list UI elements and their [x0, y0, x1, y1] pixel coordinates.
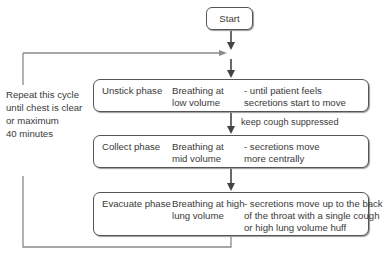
effect-line: - secretions move up to the back	[244, 198, 383, 210]
phase-breathing: Breathing at mid volume	[172, 141, 224, 165]
breathing-line: mid volume	[172, 153, 224, 165]
phase-name: Collect phase	[102, 141, 160, 153]
effect-line: or high lung volume huff	[244, 222, 383, 234]
loop-note-line: 40 minutes	[6, 127, 82, 140]
breathing-line: Breathing at	[172, 85, 224, 97]
effect-line: of the throat with a single cough	[244, 210, 383, 222]
arrow-start-down	[227, 30, 235, 50]
loop-return-arrow	[23, 50, 227, 56]
loop-note-line: or maximum	[6, 114, 82, 127]
effect-line: - secretions move	[244, 141, 320, 153]
arrow-unstick-to-collect	[227, 112, 235, 134]
effect-line: more centrally	[244, 153, 320, 165]
breathing-line: low volume	[172, 97, 224, 109]
start-node: Start	[206, 7, 253, 30]
transition-label: keep cough suppressed	[241, 116, 339, 128]
effect-line: - until patient feels	[244, 85, 346, 97]
start-label: Start	[207, 8, 252, 29]
phase-effect: - secretions move up to the back of the …	[244, 198, 383, 234]
phase-breathing: Breathing at high lung volume	[172, 198, 245, 222]
phase-box-unstick: Unstick phase Breathing at low volume - …	[93, 79, 369, 112]
breathing-line: Breathing at high	[172, 198, 245, 210]
phase-effect: - secretions move more centrally	[244, 141, 320, 165]
arrow-collect-to-evacuate	[227, 168, 235, 191]
arrow-to-unstick	[227, 59, 235, 78]
phase-name: Unstick phase	[102, 85, 162, 97]
breathing-line: lung volume	[172, 210, 245, 222]
phase-box-collect: Collect phase Breathing at mid volume - …	[93, 135, 369, 168]
phase-breathing: Breathing at low volume	[172, 85, 224, 109]
effect-line: secretions start to move	[244, 97, 346, 109]
loop-note-line: until chest is clear	[6, 101, 82, 114]
phase-box-evacuate: Evacuate phase Breathing at high lung vo…	[93, 192, 369, 236]
loop-note: Repeat this cycle until chest is clear o…	[6, 88, 82, 140]
phase-name: Evacuate phase	[102, 198, 171, 210]
breathing-line: Breathing at	[172, 141, 224, 153]
phase-effect: - until patient feels secretions start t…	[244, 85, 346, 109]
loop-note-line: Repeat this cycle	[6, 88, 82, 101]
